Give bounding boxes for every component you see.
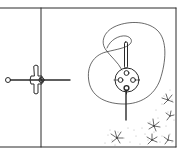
flower-icon — [111, 131, 123, 143]
flower-icon — [164, 135, 173, 144]
flower-decoration — [105, 90, 175, 146]
spindle-top — [125, 42, 128, 68]
end-ring-icon — [6, 78, 11, 83]
flower-icon — [162, 94, 173, 104]
flower-icon — [148, 119, 160, 131]
flower-icon — [147, 134, 157, 144]
handle-mechanism — [6, 65, 71, 94]
flower-icon — [166, 111, 174, 120]
disc-hole-right — [131, 78, 136, 83]
spindle-mechanism — [88, 22, 165, 120]
disc-hole-top — [124, 71, 129, 76]
disc-hole-left — [118, 78, 123, 83]
frame — [0, 8, 176, 147]
illustration — [0, 0, 186, 155]
